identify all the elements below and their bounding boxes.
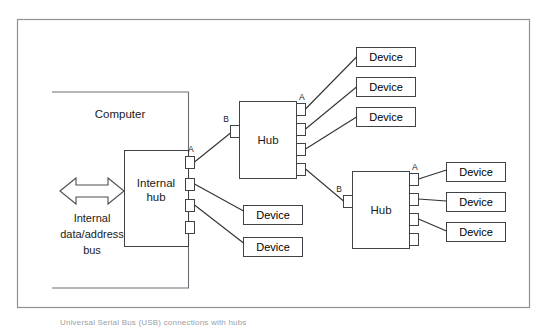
- bus-label-line1: Internal: [74, 212, 111, 224]
- hub-bottom-upstream-port-b[interactable]: [344, 196, 353, 208]
- link-hub-bottom-to-device-8: [419, 219, 447, 231]
- hub-bottom-upstream-port-b-label: B: [336, 184, 342, 194]
- diagram-canvas: Computer Internal hub A Internal data/ad…: [0, 0, 549, 328]
- computer-label: Computer: [95, 108, 146, 120]
- internal-hub-port-a-label: A: [188, 144, 194, 154]
- bus-label-line2: data/address: [60, 228, 124, 240]
- device-7-label: Device: [459, 196, 493, 208]
- bus-label-line3: bus: [83, 244, 101, 256]
- internal-hub-port-4[interactable]: [186, 222, 195, 234]
- link-hub-top-a-to-device-1: [306, 57, 357, 109]
- figure-caption: Universal Serial Bus (USB) connections w…: [60, 318, 247, 327]
- hub-top-upstream-port-b-label: B: [223, 114, 229, 124]
- link-hub-top-to-device-3: [306, 117, 357, 149]
- hub-top-port-2[interactable]: [297, 124, 306, 136]
- link-internal-hub-to-device-4: [195, 184, 244, 211]
- hub-top-port-a[interactable]: [297, 104, 306, 116]
- internal-hub-port-2[interactable]: [186, 179, 195, 191]
- internal-bus-arrow: [60, 178, 124, 204]
- device-8-label: Device: [459, 226, 493, 238]
- internal-hub-port-3[interactable]: [186, 200, 195, 212]
- hub-bottom-port-a-label: A: [412, 162, 418, 172]
- hub-bottom-port-4[interactable]: [410, 234, 419, 246]
- link-internal-hub-to-device-5: [195, 205, 244, 243]
- hub-bottom-port-3[interactable]: [410, 214, 419, 226]
- link-hub-bottom-to-device-7: [419, 199, 447, 201]
- device-3-label: Device: [369, 111, 403, 123]
- internal-hub-port-a[interactable]: [186, 157, 195, 169]
- device-4-label: Device: [256, 209, 290, 221]
- hub-bottom-label: Hub: [370, 204, 391, 216]
- link-internal-hub-a-to-hub-top-b: [195, 133, 231, 162]
- device-5-label: Device: [256, 241, 290, 253]
- device-1-label: Device: [369, 51, 403, 63]
- internal-hub-label-line1: Internal: [137, 177, 175, 189]
- internal-hub-label-line2: hub: [146, 191, 165, 203]
- link-hub-bottom-a-to-device-6: [419, 170, 447, 179]
- hub-top-port-a-label: A: [299, 92, 305, 102]
- hub-top-port-4[interactable]: [297, 164, 306, 176]
- device-2-label: Device: [369, 81, 403, 93]
- device-6-label: Device: [459, 166, 493, 178]
- link-hub-top-to-device-2: [306, 87, 357, 129]
- hub-top-label: Hub: [257, 134, 278, 146]
- hub-top-upstream-port-b[interactable]: [231, 126, 240, 138]
- hub-bottom-port-a[interactable]: [410, 174, 419, 186]
- usb-topology-figure: Computer Internal hub A Internal data/ad…: [0, 0, 549, 328]
- hub-top-port-3[interactable]: [297, 144, 306, 156]
- hub-bottom-port-2[interactable]: [410, 194, 419, 206]
